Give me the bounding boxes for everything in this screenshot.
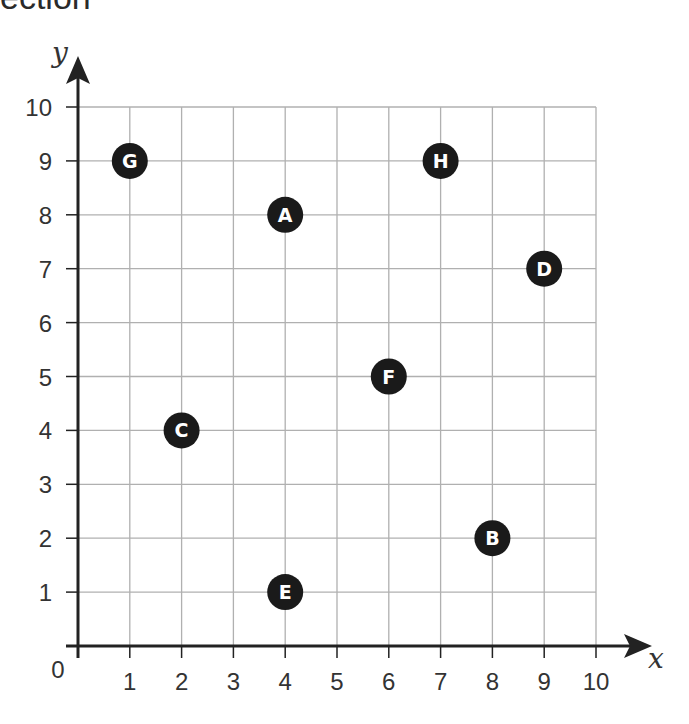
x-tick-label: 9 <box>538 668 551 695</box>
point-label: G <box>122 150 138 172</box>
point-c: C <box>164 412 200 448</box>
point-label: A <box>278 204 293 226</box>
origin-label: 0 <box>51 656 64 683</box>
point-b: B <box>474 520 510 556</box>
y-tick-label: 2 <box>39 525 52 552</box>
y-tick-label: 4 <box>39 417 52 444</box>
axes <box>66 56 652 658</box>
x-tick-label: 1 <box>123 668 136 695</box>
tick-marks <box>66 107 596 658</box>
point-e: E <box>267 574 303 610</box>
coordinate-grid-chart: 1234567891012345678910 0 x y ABCDEFGH <box>0 0 689 724</box>
x-tick-label: 6 <box>382 668 395 695</box>
x-tick-label: 10 <box>583 668 610 695</box>
point-d: D <box>526 251 562 287</box>
x-tick-label: 2 <box>175 668 188 695</box>
point-label: D <box>536 258 552 280</box>
y-tick-label: 8 <box>39 202 52 229</box>
point-label: E <box>279 581 292 603</box>
point-label: F <box>382 366 395 388</box>
x-tick-label: 3 <box>227 668 240 695</box>
y-tick-label: 9 <box>39 148 52 175</box>
point-g: G <box>112 143 148 179</box>
x-tick-label: 7 <box>434 668 447 695</box>
x-tick-label: 8 <box>486 668 499 695</box>
grid-lines <box>78 107 596 646</box>
x-tick-label: 5 <box>330 668 343 695</box>
tick-labels: 1234567891012345678910 <box>25 94 609 695</box>
point-label: B <box>485 527 499 549</box>
point-h: H <box>423 143 459 179</box>
point-f: F <box>371 359 407 395</box>
point-label: H <box>433 150 449 172</box>
point-label: C <box>175 419 189 441</box>
x-tick-label: 4 <box>279 668 292 695</box>
y-tick-label: 5 <box>39 364 52 391</box>
y-tick-label: 6 <box>39 310 52 337</box>
y-tick-label: 10 <box>25 94 52 121</box>
point-a: A <box>267 197 303 233</box>
y-tick-label: 1 <box>39 579 52 606</box>
x-axis-label: x <box>648 642 664 675</box>
y-tick-label: 3 <box>39 471 52 498</box>
y-tick-label: 7 <box>39 256 52 283</box>
y-axis-label: y <box>50 36 69 69</box>
